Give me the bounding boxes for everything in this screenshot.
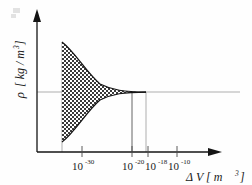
x-axis-label: Δ V [ m 3 ] [185, 169, 245, 184]
tick-label-1e18-exponent: -18 [158, 158, 168, 166]
tick-label-1e18: 10 -18 [145, 158, 168, 172]
x-axis-label-variable: V [196, 170, 205, 184]
plot-canvas: 10 -30 10 -20 10 -18 10 -10 ρ [ kg / m 3… [0, 0, 252, 185]
right-arrow-icon [208, 148, 222, 156]
shaded-fluctuation-region [60, 40, 150, 146]
y-axis-label-close: ] [13, 40, 27, 46]
tick-label-1e10-mantissa: 10 [168, 160, 180, 172]
x-axis-label-delta: Δ [185, 170, 193, 184]
tick-label-1e20: 10 -20 [122, 158, 145, 172]
y-axis-label-rho: ρ [12, 92, 27, 99]
figure-container: 10 -30 10 -20 10 -18 10 -10 ρ [ kg / m 3… [0, 0, 252, 185]
x-axis-label-close: ] [239, 170, 245, 184]
x-axis-tick-labels: 10 -30 10 -20 10 -18 10 -10 [72, 158, 191, 172]
up-arrow-icon [33, 9, 41, 22]
tick-label-1e18-mantissa: 10 [145, 160, 157, 172]
y-axis-label-units: [ kg / m [13, 50, 27, 87]
tick-label-1e30: 10 -30 [72, 158, 95, 172]
tick-label-1e20-mantissa: 10 [122, 160, 134, 172]
tick-label-1e30-mantissa: 10 [72, 160, 84, 172]
axis-lines [33, 9, 222, 156]
scan-artifact-speck-secondary [11, 14, 16, 18]
scan-artifact-speck [13, 8, 20, 13]
tick-label-1e20-exponent: -20 [135, 158, 145, 166]
y-axis-label: ρ [ kg / m 3 ] [12, 40, 27, 99]
x-axis-label-units: [ m [206, 170, 223, 184]
tick-label-1e10-exponent: -10 [181, 158, 191, 166]
tick-label-1e30-exponent: -30 [85, 158, 95, 166]
x-axis-label-exponent: 3 [234, 169, 239, 178]
